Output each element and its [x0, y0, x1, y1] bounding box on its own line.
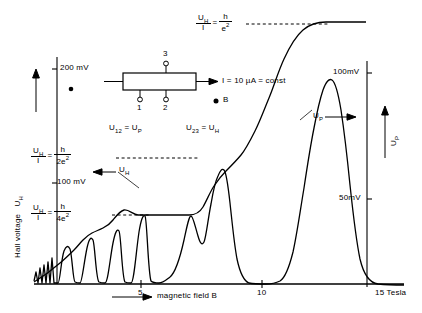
x-axis-title: magnetic field B	[157, 292, 217, 300]
tick-label-10: 10	[257, 289, 266, 297]
right-axis-arrow	[382, 106, 389, 158]
contact-3-pad	[164, 61, 169, 66]
magnetic-field-dot	[214, 99, 219, 104]
x-axis-arrow	[112, 294, 152, 300]
contact-1-label: 1	[137, 104, 142, 112]
scan-artifact-dot	[69, 87, 74, 92]
formula-h-4e2-lhs: UH I	[31, 204, 46, 223]
relation-u12: U12 = UP	[109, 124, 142, 134]
formula-h-2e2-rhs: h 2e2	[54, 146, 71, 166]
probe-voltage-curve	[34, 79, 404, 285]
tick-label-100mv-left: 100 mV	[57, 178, 86, 186]
hall-bar-body	[123, 73, 196, 90]
contact-1-pad	[138, 97, 143, 102]
formula-h-2e2-lhs: UH I	[31, 147, 46, 166]
left-axis-arrow	[33, 69, 40, 112]
leader-lines	[118, 110, 312, 188]
formula-h-4e2-equals: =	[48, 209, 53, 217]
plateau-guides	[112, 24, 330, 215]
relation-u23: U23 = UH	[186, 124, 219, 134]
y-axis-left-title: Hall voltage UH	[14, 196, 24, 258]
formula-h-e2-lhs: UH I	[196, 14, 211, 33]
tick-label-5: 5	[138, 289, 143, 297]
magnetic-field-label: B	[223, 96, 229, 104]
hall-bar-diagram	[104, 61, 219, 103]
formula-h-2e2-equals: =	[48, 152, 53, 160]
contact-2-pad	[164, 97, 169, 102]
formula-h-4e2: UH I = h 4e2	[31, 203, 71, 223]
contact-3-label: 3	[163, 50, 168, 58]
hall-voltage-curve	[34, 22, 366, 282]
y-axis-left-symbol-sub: H	[18, 196, 24, 201]
current-arrow-head	[209, 78, 218, 84]
y-axis-right-title: UP	[390, 136, 400, 146]
formula-h-2e2: UH I = h 2e2	[31, 146, 71, 166]
y-axis-left-title-text: Hall voltage	[13, 214, 22, 258]
probe-curve-label: UP	[313, 112, 323, 122]
current-label: I = 10 µA = const	[222, 77, 286, 85]
formula-h-e2-equals: =	[213, 19, 218, 27]
leader-up	[300, 110, 312, 120]
uh-label-arrow	[93, 169, 116, 175]
hall-curve-label: UH	[119, 166, 130, 176]
qhe-figure: Hall voltage UH UP 200 mV 100 mV 100mV 5…	[0, 0, 422, 313]
contact-2-label: 2	[163, 104, 168, 112]
formula-h-4e2-rhs: h 4e2	[54, 203, 71, 223]
y-axis-right-symbol-sub: P	[394, 136, 400, 140]
tick-label-200mv: 200 mV	[60, 64, 89, 72]
tick-label-100mv-right: 100mV	[333, 68, 359, 76]
tick-label-50mv-right: 50mV	[339, 194, 361, 202]
x-axis-unit-label: 15 Tesla	[375, 289, 406, 297]
up-label-arrow	[325, 114, 356, 120]
formula-h-e2: UH I = h e2	[196, 13, 232, 33]
right-axis-ticks	[367, 73, 372, 199]
formula-h-e2-rhs: h e2	[219, 13, 231, 33]
y-axis-right-symbol: U	[389, 140, 398, 146]
y-axis-left-symbol: U	[13, 201, 22, 207]
